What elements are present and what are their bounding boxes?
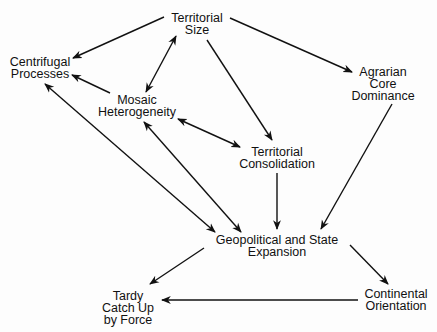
edge-mosaic-geopolitical (144, 122, 241, 232)
edge-size-to-consolidation (207, 40, 272, 140)
node-centrifugal-processes: Centrifugal Processes (10, 56, 70, 80)
edge-size-to-agrarian (230, 18, 352, 72)
node-tardy-catch-up-by-force: Tardy Catch Up by Force (102, 290, 154, 326)
edge-geopolitical-to-continental (350, 245, 388, 284)
node-label-line: Orientation (364, 300, 427, 312)
node-agrarian-core-dominance: Agrarian Core Dominance (351, 66, 414, 102)
node-label-line: by Force (102, 314, 154, 326)
edge-size-to-centrifugal (73, 17, 164, 58)
edge-agrarian-to-geopolitical (321, 104, 392, 229)
edge-geopolitical-to-tardy (150, 248, 204, 284)
node-territorial-consolidation: Territorial Consolidation (239, 146, 315, 170)
node-label-line: Dominance (351, 90, 414, 102)
causal-diagram: Territorial Size Centrifugal Processes M… (0, 0, 437, 332)
node-label-line: Consolidation (239, 158, 315, 170)
edges-layer (0, 0, 437, 332)
node-mosaic-heterogeneity: Mosaic Heterogeneity (98, 94, 176, 118)
edge-mosaic-consolidation (178, 119, 240, 147)
node-continental-orientation: Continental Orientation (364, 288, 427, 312)
edge-size-mosaic (146, 36, 176, 92)
edge-mosaic-to-centrifugal (72, 75, 110, 93)
node-label-line: Expansion (216, 246, 338, 258)
node-label-line: Heterogeneity (98, 106, 176, 118)
node-label-line: Size (171, 24, 222, 36)
node-territorial-size: Territorial Size (171, 12, 222, 36)
node-label-line: Processes (10, 68, 70, 80)
node-geopolitical-state-expansion: Geopolitical and State Expansion (216, 234, 338, 258)
